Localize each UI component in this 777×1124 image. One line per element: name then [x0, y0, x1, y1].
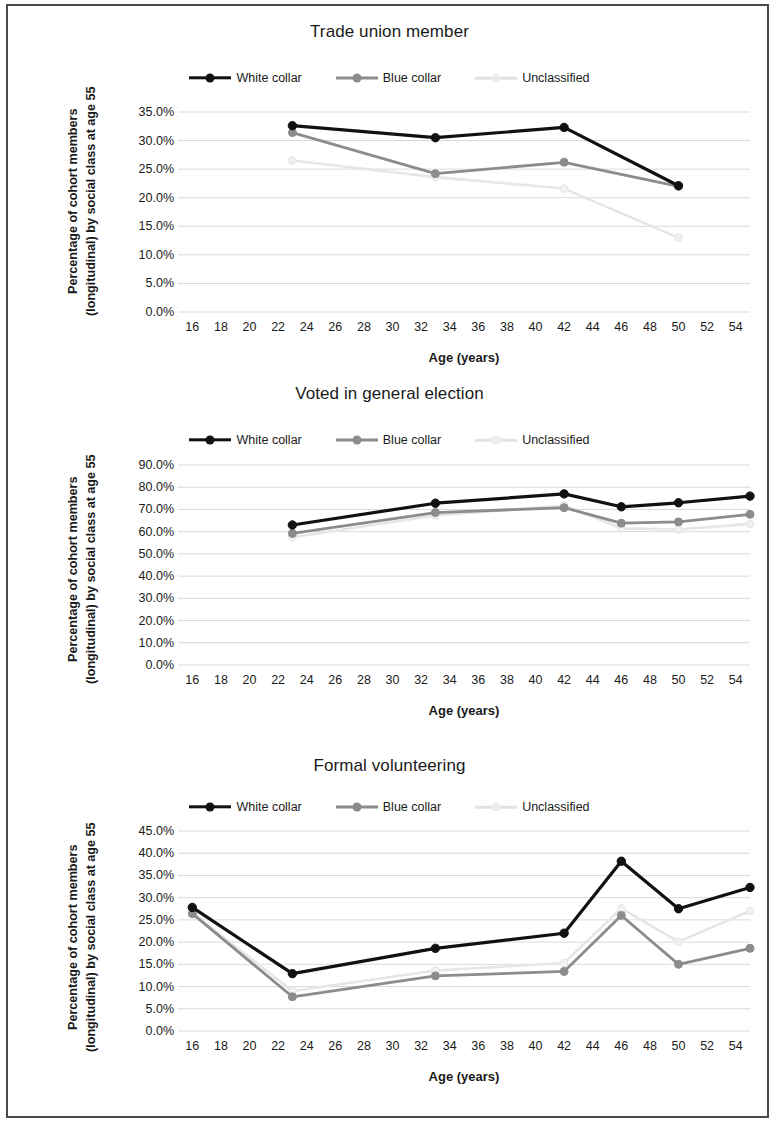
legend-marker-blue-collar-icon: [336, 72, 378, 84]
y-tick-label: 25.0%: [139, 162, 174, 176]
x-tick-label: 46: [614, 673, 628, 687]
x-tick-label: 16: [185, 1039, 199, 1053]
x-tick-label: 36: [471, 320, 485, 334]
series-line: [192, 861, 750, 973]
x-tick-label: 54: [729, 1039, 743, 1053]
x-tick-label: 26: [328, 673, 342, 687]
x-tick-label: 50: [672, 1039, 686, 1053]
x-tick-label: 20: [243, 1039, 257, 1053]
legend-label-white-collar: White collar: [236, 800, 301, 814]
x-tick-label: 28: [357, 1039, 371, 1053]
y-tick-label: 90.0%: [139, 458, 174, 472]
series-white-collar: [288, 122, 682, 190]
data-point-marker: [288, 969, 296, 977]
legend-item-white-collar: White collar: [189, 800, 301, 814]
data-point-marker: [560, 929, 568, 937]
y-tick-label: 80.0%: [139, 480, 174, 494]
x-tick-label: 32: [414, 320, 428, 334]
data-point-marker: [431, 972, 439, 980]
x-tick-label: 22: [271, 320, 285, 334]
y-tick-label: 20.0%: [139, 191, 174, 205]
x-tick-label: 46: [614, 1039, 628, 1053]
legend-label-white-collar: White collar: [236, 71, 301, 85]
plot-area: [178, 465, 750, 665]
series-line: [292, 126, 678, 186]
data-point-marker: [561, 185, 568, 192]
y-axis-title: Percentage of cohort members (longitudin…: [64, 438, 98, 700]
legend-label-unclassified: Unclassified: [522, 71, 589, 85]
data-point-marker: [560, 123, 568, 131]
data-point-marker: [289, 157, 296, 164]
data-point-marker: [431, 134, 439, 142]
x-tick-label: 28: [357, 320, 371, 334]
x-tick-label: 22: [271, 1039, 285, 1053]
data-point-marker: [674, 499, 682, 507]
x-tick-label: 34: [443, 320, 457, 334]
plot-area: [178, 831, 750, 1031]
x-tick-label: 44: [586, 1039, 600, 1053]
y-tick-label: 20.0%: [139, 614, 174, 628]
x-tick-label: 26: [328, 1039, 342, 1053]
x-tick-label: 24: [300, 320, 314, 334]
x-tick-label: 28: [357, 673, 371, 687]
data-point-marker: [675, 234, 682, 241]
x-tick-label: 52: [700, 1039, 714, 1053]
data-point-marker: [431, 499, 439, 507]
legend-label-white-collar: White collar: [236, 433, 301, 447]
data-point-marker: [674, 182, 682, 190]
x-tick-label: 40: [529, 673, 543, 687]
data-point-marker: [746, 492, 754, 500]
data-point-marker: [617, 519, 625, 527]
y-tick-label: 5.0%: [146, 276, 175, 290]
y-tick-label: 45.0%: [139, 824, 174, 838]
x-tick-label: 42: [557, 673, 571, 687]
data-point-marker: [288, 529, 296, 537]
x-axis-title: Age (years): [178, 1069, 750, 1084]
series-blue-collar: [188, 910, 754, 1001]
legend-label-blue-collar: Blue collar: [383, 800, 441, 814]
y-tick-label: 0.0%: [146, 658, 175, 672]
data-point-marker: [431, 944, 439, 952]
legend-marker-unclassified-icon: [475, 434, 517, 446]
chart-panel-volunteering: Formal volunteering White collar Blue co…: [8, 748, 771, 1116]
chart-panel-voted: Voted in general election White collar B…: [8, 376, 771, 748]
legend-item-unclassified: Unclassified: [475, 71, 589, 85]
x-tick-label: 48: [643, 320, 657, 334]
plot-area: [178, 112, 750, 312]
x-tick-label: 30: [386, 1039, 400, 1053]
data-point-marker: [746, 520, 753, 527]
data-point-marker: [746, 883, 754, 891]
x-tick-label: 46: [614, 320, 628, 334]
legend-marker-white-collar-icon: [189, 801, 231, 813]
x-tick-label: 40: [529, 320, 543, 334]
legend-item-unclassified: Unclassified: [475, 433, 589, 447]
x-tick-label: 32: [414, 673, 428, 687]
legend-item-blue-collar: Blue collar: [336, 800, 441, 814]
x-tick-label: 38: [500, 673, 514, 687]
legend-marker-unclassified-icon: [475, 72, 517, 84]
y-tick-label: 5.0%: [146, 1002, 175, 1016]
y-tick-label: 50.0%: [139, 547, 174, 561]
data-point-marker: [288, 521, 296, 529]
x-tick-label: 38: [500, 1039, 514, 1053]
legend-marker-blue-collar-icon: [336, 801, 378, 813]
y-tick-label: 60.0%: [139, 525, 174, 539]
x-tick-label: 20: [243, 320, 257, 334]
x-tick-label: 16: [185, 673, 199, 687]
y-axis-tick-labels: 0.0%5.0%10.0%15.0%20.0%25.0%30.0%35.0%: [112, 14, 174, 314]
legend-item-blue-collar: Blue collar: [336, 71, 441, 85]
legend-marker-white-collar-icon: [189, 72, 231, 84]
legend-item-white-collar: White collar: [189, 433, 301, 447]
x-axis-title: Age (years): [178, 350, 750, 365]
y-tick-label: 30.0%: [139, 134, 174, 148]
data-point-marker: [561, 959, 568, 966]
y-tick-label: 40.0%: [139, 846, 174, 860]
x-axis-tick-labels: 1618202224262830323436384042444648505254: [178, 320, 750, 338]
x-tick-label: 30: [386, 673, 400, 687]
y-axis-tick-labels: 0.0%10.0%20.0%30.0%40.0%50.0%60.0%70.0%8…: [112, 376, 174, 676]
x-tick-label: 36: [471, 673, 485, 687]
x-tick-label: 24: [300, 673, 314, 687]
x-tick-label: 20: [243, 673, 257, 687]
x-tick-label: 38: [500, 320, 514, 334]
data-point-marker: [288, 122, 296, 130]
